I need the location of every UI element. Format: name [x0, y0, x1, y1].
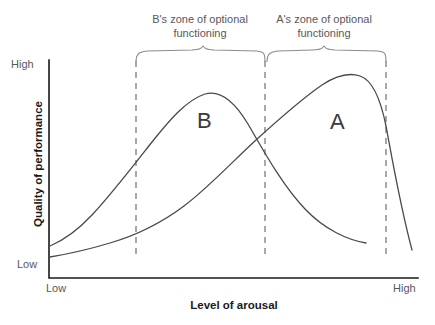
curve-b-label: B: [197, 110, 212, 132]
zone-a-annotation: A's zone of optional functioning: [258, 13, 390, 40]
y-axis-high-label: High: [11, 58, 34, 71]
x-axis-low-label: Low: [46, 282, 66, 295]
curve-a-label: A: [330, 111, 345, 133]
y-axis-low-label: Low: [17, 258, 37, 271]
chart-plot-area: [0, 0, 435, 325]
x-axis-high-label: High: [393, 282, 416, 295]
x-axis-title: Level of arousal: [49, 299, 419, 311]
brace-zone-a: [267, 46, 386, 62]
y-axis-title: Quality of performance: [32, 84, 44, 244]
brace-zone-b: [136, 46, 265, 62]
arousal-performance-chart: B's zone of optional functioning A's zon…: [0, 0, 435, 325]
zone-b-annotation: B's zone of optional functioning: [130, 13, 270, 40]
